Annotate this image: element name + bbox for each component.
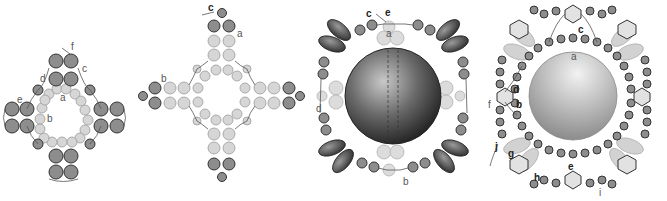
thread-path: [4, 48, 126, 182]
label-a: a: [571, 51, 577, 62]
label-f: f: [71, 41, 74, 52]
figure-step-2: c a b: [139, 2, 305, 182]
label-e: e: [17, 94, 23, 105]
label-c: c: [208, 2, 214, 13]
label-a: a: [386, 28, 392, 39]
label-a: a: [237, 28, 243, 39]
label-h: h: [534, 172, 540, 183]
label-g: g: [508, 148, 514, 159]
large-round-bead: [345, 48, 441, 144]
label-b: b: [516, 99, 522, 110]
light-beads: [164, 35, 280, 154]
figure-step-1: f c d a e b: [4, 41, 126, 182]
label-b: b: [161, 73, 167, 84]
label-b: b: [403, 176, 409, 187]
label-c: c: [578, 24, 584, 35]
label-i: i: [599, 187, 601, 198]
label-j: j: [494, 141, 498, 152]
label-e: e: [385, 7, 391, 18]
label-e: e: [568, 161, 574, 172]
label-d: d: [40, 73, 46, 84]
beading-diagram: f c d a e b: [0, 0, 667, 201]
dark-beads: [139, 9, 305, 182]
figure-step-3: c e a d b: [316, 7, 471, 187]
label-c: c: [82, 63, 87, 74]
label-f: f: [488, 99, 491, 110]
label-b: b: [47, 113, 53, 124]
dark-beads: [5, 54, 124, 179]
label-a: a: [60, 92, 66, 103]
figure-step-4: c a d f b j g e h i: [488, 5, 651, 198]
label-d: d: [316, 103, 322, 114]
label-d: d: [513, 84, 519, 95]
label-c: c: [366, 8, 372, 19]
large-round-bead: [529, 52, 617, 140]
